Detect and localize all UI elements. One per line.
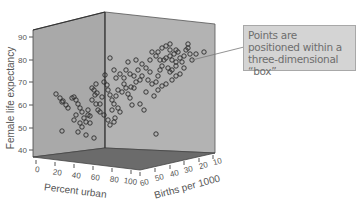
svg-text:60: 60: [18, 101, 27, 110]
svg-text:70: 70: [18, 78, 27, 87]
y-axis-label: Female life expectancy: [5, 47, 16, 149]
svg-text:80: 80: [109, 174, 120, 184]
annotation-callout: Points are positioned within a three-dim…: [243, 25, 356, 71]
svg-text:50: 50: [18, 124, 27, 133]
svg-text:20: 20: [198, 160, 209, 171]
svg-text:80: 80: [18, 56, 27, 65]
svg-text:50: 50: [154, 172, 165, 183]
svg-text:100: 100: [123, 176, 138, 187]
y-axis: 90 80 70 60 50 40 Female life expectancy: [5, 33, 33, 155]
svg-text:40: 40: [18, 146, 27, 155]
svg-text:40: 40: [169, 168, 180, 179]
svg-text:20: 20: [52, 167, 63, 177]
svg-text:0: 0: [35, 165, 41, 175]
svg-text:60: 60: [139, 177, 150, 188]
back-wall: [105, 12, 215, 153]
svg-text:90: 90: [18, 33, 27, 42]
svg-text:40: 40: [71, 170, 82, 180]
svg-text:30: 30: [183, 164, 194, 175]
svg-text:10: 10: [212, 156, 223, 167]
x-axis-label: Percent urban: [44, 181, 108, 200]
svg-text:60: 60: [90, 172, 101, 182]
